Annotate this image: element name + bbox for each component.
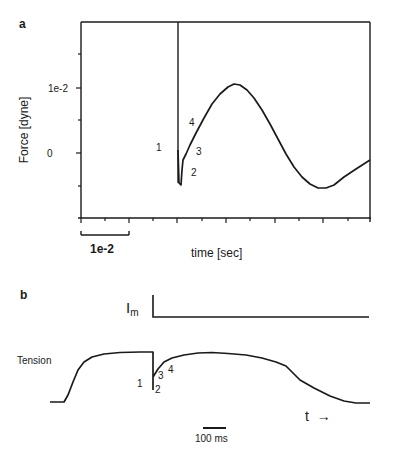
y-ticks bbox=[76, 54, 81, 186]
panel-a-axes bbox=[76, 22, 371, 235]
time-scale-label: 100 ms bbox=[195, 433, 228, 444]
x-ticks bbox=[81, 218, 348, 223]
x-scale-bar-label: 1e-2 bbox=[90, 244, 114, 255]
y-tick-label-top: 1e-2 bbox=[48, 83, 68, 94]
im-trace bbox=[153, 295, 369, 317]
y-tick-label-zero: 0 bbox=[47, 148, 53, 159]
b-mark-4: 4 bbox=[168, 364, 174, 375]
x-axis-title: time [sec] bbox=[191, 248, 242, 259]
b-mark-2: 2 bbox=[155, 384, 161, 395]
tension-trace bbox=[50, 352, 370, 403]
mark-3: 3 bbox=[196, 146, 202, 157]
im-label-sub: m bbox=[130, 307, 138, 318]
panel-b-letter: b bbox=[20, 290, 27, 301]
figure-canvas bbox=[0, 0, 394, 458]
mark-4: 4 bbox=[189, 117, 195, 128]
force-curve bbox=[178, 84, 370, 188]
x-scale-bar bbox=[81, 231, 129, 235]
mark-1: 1 bbox=[156, 142, 162, 153]
y-axis-title: Force [dyne] bbox=[17, 97, 31, 164]
b-mark-1: 1 bbox=[137, 378, 143, 389]
im-label: Im bbox=[126, 300, 139, 320]
time-arrow-label: t → bbox=[305, 409, 331, 423]
panel-a-letter: a bbox=[19, 19, 26, 30]
b-mark-3: 3 bbox=[158, 370, 164, 381]
mark-2: 2 bbox=[191, 167, 197, 178]
tension-label: Tension bbox=[17, 355, 51, 366]
